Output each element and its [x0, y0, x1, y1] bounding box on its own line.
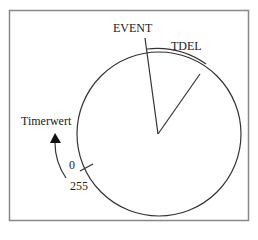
arrow-up-icon [50, 133, 61, 143]
timer-value-label: Timerwert [21, 115, 71, 127]
timer-circle [77, 52, 241, 216]
event-label: EVENT [113, 22, 152, 34]
zero-label: 0 [69, 159, 75, 171]
tdel-hand [158, 74, 200, 134]
tdel-label: TDEL [171, 40, 202, 52]
timer-direction-arrow-line [55, 143, 66, 178]
max-value-label: 255 [70, 180, 88, 192]
zero-tick-mark [80, 164, 93, 171]
